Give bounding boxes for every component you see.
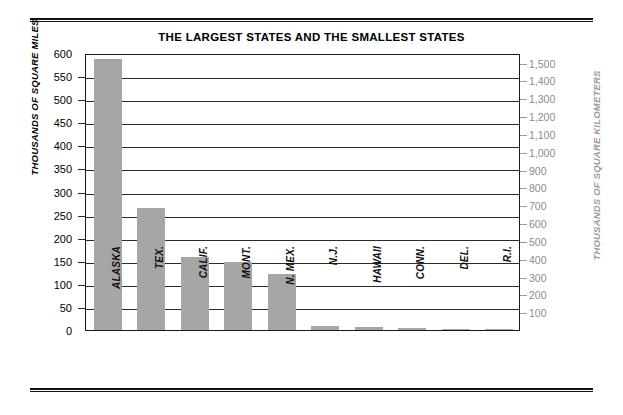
left-tick-mark xyxy=(78,308,85,309)
right-tick-mark xyxy=(520,171,527,172)
bars-layer xyxy=(86,55,519,330)
right-tick-mark xyxy=(520,278,527,279)
right-tick-label: 1,500 xyxy=(529,59,569,69)
category-label: ALASKA xyxy=(111,246,122,336)
bottom-double-rule xyxy=(30,388,593,392)
plot-area xyxy=(85,54,520,331)
right-tick-label: 1,200 xyxy=(529,112,569,122)
left-tick-label: 450 xyxy=(28,118,72,128)
right-tick-mark xyxy=(520,81,527,82)
right-tick-mark xyxy=(520,295,527,296)
category-label: CONN. xyxy=(415,246,426,336)
right-tick-mark xyxy=(520,153,527,154)
right-tick-mark xyxy=(520,135,527,136)
left-tick-label: 500 xyxy=(28,95,72,105)
right-tick-mark xyxy=(520,99,527,100)
right-tick-mark xyxy=(520,188,527,189)
left-tick-mark xyxy=(78,216,85,217)
right-tick-mark xyxy=(520,206,527,207)
right-tick-label: 700 xyxy=(529,201,569,211)
left-tick-label: 300 xyxy=(28,188,72,198)
right-tick-label: 500 xyxy=(529,237,569,247)
right-tick-mark xyxy=(520,117,527,118)
right-tick-mark xyxy=(520,313,527,314)
right-tick-label: 1,300 xyxy=(529,94,569,104)
category-label: N.J. xyxy=(328,246,339,336)
left-tick-mark xyxy=(78,100,85,101)
right-tick-label: 100 xyxy=(529,308,569,318)
chart-page: THE LARGEST STATES AND THE SMALLEST STAT… xyxy=(0,0,623,415)
left-tick-label: 400 xyxy=(28,141,72,151)
right-tick-label: 800 xyxy=(529,183,569,193)
right-tick-label: 1,000 xyxy=(529,148,569,158)
left-tick-label: 200 xyxy=(28,234,72,244)
left-tick-mark xyxy=(78,169,85,170)
category-label: TEX. xyxy=(154,246,165,336)
left-tick-label: 550 xyxy=(28,72,72,82)
left-tick-mark xyxy=(78,193,85,194)
right-tick-label: 600 xyxy=(529,219,569,229)
right-tick-label: 200 xyxy=(529,290,569,300)
left-tick-mark xyxy=(78,123,85,124)
left-tick-label: 350 xyxy=(28,164,72,174)
category-label: MONT. xyxy=(241,246,252,336)
left-tick-label: 250 xyxy=(28,211,72,221)
right-tick-label: 1,400 xyxy=(529,76,569,86)
category-label: CALIF. xyxy=(198,246,209,336)
left-tick-mark xyxy=(78,146,85,147)
category-label: HAWAII xyxy=(372,246,383,336)
left-tick-label: 50 xyxy=(28,303,72,313)
right-tick-mark xyxy=(520,242,527,243)
chart-title: THE LARGEST STATES AND THE SMALLEST STAT… xyxy=(0,31,623,43)
right-tick-mark xyxy=(520,260,527,261)
left-tick-mark xyxy=(78,285,85,286)
left-tick-label: 150 xyxy=(28,257,72,267)
left-tick-mark xyxy=(78,239,85,240)
left-tick-label: 100 xyxy=(28,280,72,290)
right-tick-label: 1,100 xyxy=(529,130,569,140)
right-tick-label: 300 xyxy=(529,273,569,283)
category-label: N. MEX. xyxy=(285,246,296,336)
left-tick-label: 600 xyxy=(28,49,72,59)
left-tick-mark xyxy=(78,262,85,263)
top-double-rule xyxy=(30,18,593,22)
right-tick-label: 400 xyxy=(529,255,569,265)
category-label: DEL. xyxy=(459,246,470,336)
right-tick-label: 900 xyxy=(529,166,569,176)
right-tick-mark xyxy=(520,224,527,225)
right-tick-mark xyxy=(520,64,527,65)
right-axis-title: THOUSANDS OF SQUARE KILOMETERS xyxy=(591,51,602,281)
left-tick-label: 0 xyxy=(28,326,72,336)
left-tick-mark xyxy=(78,77,85,78)
category-label: R.I. xyxy=(502,246,513,336)
